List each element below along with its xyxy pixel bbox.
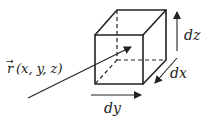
cube-top-face (95, 10, 166, 35)
volume-element-diagram: r → (x, y, z) dz dx dy (0, 0, 210, 121)
dy-label: dy (104, 100, 122, 116)
position-vector-label: r → (x, y, z) (6, 56, 62, 76)
vector-arrow-accent: → (6, 56, 14, 66)
dz-label: dz (184, 27, 201, 43)
r-arguments: (x, y, z) (16, 61, 62, 76)
dx-label: dx (170, 65, 187, 81)
cube-right-face (143, 10, 166, 84)
